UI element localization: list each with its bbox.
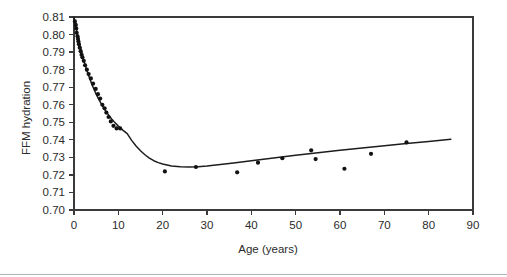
data-point (82, 59, 86, 63)
y-tick-label: 0.77 (43, 81, 65, 93)
data-point (78, 46, 82, 50)
x-tick-label: 20 (156, 219, 169, 231)
y-axis-tick-labels: 0.700.710.720.730.740.750.760.770.780.79… (43, 11, 66, 216)
y-tick-label: 0.74 (43, 134, 66, 146)
data-point (77, 42, 81, 46)
y-tick-label: 0.71 (43, 186, 65, 198)
figure-container: 0.700.710.720.730.740.750.760.770.780.79… (0, 0, 507, 277)
fitted-curve (74, 17, 451, 167)
data-point (106, 115, 110, 119)
data-point (89, 76, 93, 80)
data-point (98, 96, 102, 100)
y-tick-label: 0.79 (43, 46, 65, 58)
data-point (83, 63, 87, 67)
data-point (342, 167, 346, 171)
x-tick-label: 30 (201, 219, 214, 231)
data-point (109, 119, 113, 123)
y-tick-label: 0.80 (43, 29, 65, 41)
y-axis-ticks (69, 17, 74, 210)
data-point (235, 170, 239, 174)
data-point (194, 165, 198, 169)
x-tick-label: 40 (245, 219, 258, 231)
data-point (256, 161, 260, 165)
y-tick-label: 0.78 (43, 64, 65, 76)
data-point (87, 72, 91, 76)
data-point (100, 103, 104, 107)
data-point (104, 111, 108, 115)
x-tick-label: 0 (71, 219, 77, 231)
x-axis-ticks (74, 210, 473, 215)
data-point (404, 140, 408, 144)
x-tick-label: 80 (422, 219, 435, 231)
data-point (74, 26, 78, 30)
scatter-points (73, 19, 409, 174)
footer-divider (0, 274, 507, 275)
plot-frame (74, 17, 473, 210)
data-point (369, 152, 373, 156)
x-axis-tick-labels: 0102030405060708090 (71, 219, 480, 231)
data-point (280, 156, 284, 160)
x-tick-label: 70 (378, 219, 391, 231)
data-point (309, 148, 313, 152)
data-point (73, 19, 77, 23)
y-tick-label: 0.72 (43, 169, 65, 181)
data-point (118, 126, 122, 130)
data-point (79, 49, 83, 53)
data-point (75, 31, 79, 35)
data-point (85, 68, 89, 72)
ffm-hydration-chart: 0.700.710.720.730.740.750.760.770.780.79… (0, 0, 507, 277)
data-point (314, 157, 318, 161)
data-point (94, 87, 98, 91)
x-tick-label: 50 (289, 219, 302, 231)
x-axis-title: Age (years) (238, 243, 298, 255)
y-axis-title: FFM hydration (20, 81, 32, 155)
y-tick-label: 0.81 (43, 11, 65, 23)
y-tick-label: 0.76 (43, 99, 65, 111)
x-tick-label: 90 (467, 219, 480, 231)
data-point (102, 106, 106, 110)
axis-frame (74, 17, 473, 210)
y-tick-label: 0.70 (43, 204, 65, 216)
data-point (96, 92, 100, 96)
y-tick-label: 0.75 (43, 116, 65, 128)
x-tick-label: 10 (112, 219, 125, 231)
data-point (91, 82, 95, 86)
data-point (163, 169, 167, 173)
x-tick-label: 60 (334, 219, 347, 231)
y-tick-label: 0.73 (43, 151, 65, 163)
